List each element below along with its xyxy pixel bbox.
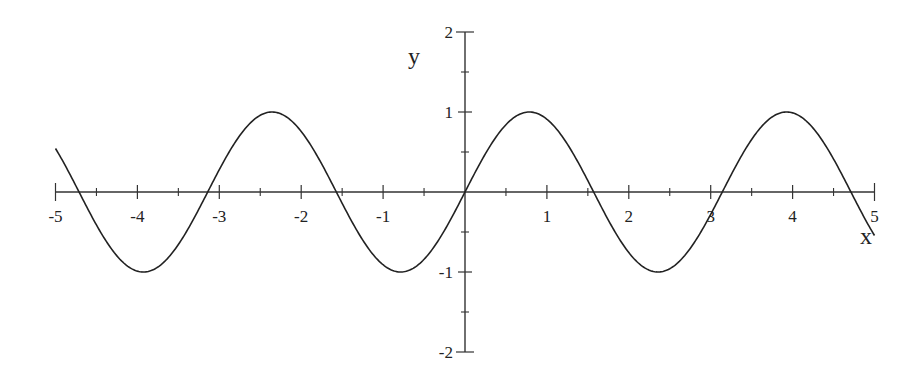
- x-tick-label: -4: [130, 207, 145, 226]
- x-tick-label: 2: [625, 207, 634, 226]
- y-tick-label: -1: [439, 263, 453, 282]
- sine-plot: -5-4-3-2-11234521-1-2 x y: [0, 0, 919, 388]
- x-tick-label: -3: [212, 207, 226, 226]
- x-tick-label: -1: [376, 207, 390, 226]
- x-tick-label: 1: [543, 207, 552, 226]
- x-tick-label: -2: [294, 207, 308, 226]
- x-axis-label: x: [860, 223, 872, 249]
- x-tick-label: 4: [788, 207, 797, 226]
- y-tick-label: 1: [445, 103, 454, 122]
- x-tick-label: -5: [48, 207, 62, 226]
- y-tick-label: -2: [439, 343, 453, 362]
- y-tick-label: 2: [445, 23, 454, 42]
- y-axis-label: y: [408, 43, 420, 69]
